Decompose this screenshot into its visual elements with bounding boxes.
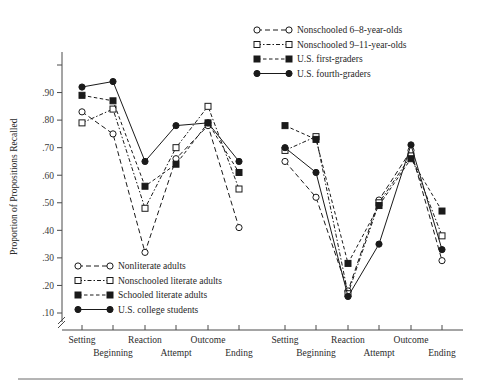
marker-filled-square [439, 208, 445, 214]
series-nonschooled-6-8-year-olds [282, 147, 445, 294]
series-polyline [82, 106, 239, 208]
marker-open-square [236, 186, 242, 192]
marker-open-circle [107, 263, 113, 269]
marker-filled-circle [110, 78, 116, 84]
x-category-label-outcome: Outcome [394, 335, 429, 345]
legend-label: Nonschooled 9–11-year-olds [297, 40, 407, 50]
legend-left-item: U.S. college students [75, 305, 199, 315]
marker-filled-circle [79, 84, 85, 90]
x-category-label-ending: Ending [225, 348, 253, 358]
marker-open-square [254, 42, 260, 48]
marker-filled-circle [107, 306, 113, 312]
marker-open-circle [75, 263, 81, 269]
marker-filled-circle [313, 169, 319, 175]
legend-right-item: Nonschooled 9–11-year-olds [254, 40, 407, 50]
marker-filled-circle [254, 70, 260, 76]
series-polyline [82, 95, 239, 186]
marker-open-circle [254, 27, 260, 33]
marker-open-circle [236, 224, 242, 230]
marker-open-circle [439, 258, 445, 264]
y-tick-label: .70 [42, 143, 54, 153]
marker-filled-circle [408, 142, 414, 148]
marker-filled-circle [75, 306, 81, 312]
legend-right-item: U.S. first-graders [254, 54, 363, 64]
legend-left: Nonliterate adultsNonschooled literate a… [75, 261, 222, 315]
marker-open-square [205, 103, 211, 109]
x-category-label-attempt: Attempt [160, 348, 191, 358]
marker-open-circle [313, 194, 319, 200]
legend-label: U.S. fourth-graders [297, 69, 371, 79]
series-nonschooled-9-11-year-olds [282, 134, 445, 297]
marker-filled-square [408, 156, 414, 162]
y-tick-label: .50 [42, 198, 54, 208]
series-u-s-fourth-graders [282, 142, 445, 300]
marker-filled-circle [142, 158, 148, 164]
two-panel-line-chart: .90.80.70.60.50.40.30.20.10 Proportion o… [0, 0, 481, 388]
legend-right-item: U.S. fourth-graders [254, 69, 371, 79]
legend-left-item: Nonschooled literate adults [75, 276, 222, 286]
marker-filled-square [75, 292, 81, 298]
y-axis-title: Proportion of Propositions Recalled [9, 118, 19, 255]
y-tick-label: .30 [42, 253, 54, 263]
marker-open-circle [79, 109, 85, 115]
legend-left-item: Schooled literate adults [75, 290, 207, 300]
marker-open-square [79, 120, 85, 126]
legend-right-item: Nonschooled 6–8-year-olds [254, 25, 402, 35]
marker-open-circle [110, 131, 116, 137]
y-axis: .90.80.70.60.50.40.30.20.10 [42, 52, 65, 328]
series-schooled-literate-adults [79, 92, 242, 189]
marker-filled-square [107, 292, 113, 298]
y-tick-label: .20 [42, 281, 54, 291]
x-category-label-beginning: Beginning [296, 348, 336, 358]
x-category-label-outcome: Outcome [191, 335, 226, 345]
marker-open-square [142, 205, 148, 211]
marker-filled-circle [205, 120, 211, 126]
marker-filled-square [79, 92, 85, 98]
series-polyline [285, 145, 442, 297]
legend-label: Schooled literate adults [118, 290, 207, 300]
marker-filled-circle [376, 241, 382, 247]
y-tick-label: .10 [42, 308, 54, 318]
x-category-label-attempt: Attempt [363, 348, 394, 358]
x-category-label-reaction: Reaction [128, 335, 162, 345]
y-tick-label: .90 [42, 88, 54, 98]
marker-filled-circle [439, 247, 445, 253]
marker-open-circle [286, 27, 292, 33]
series-u-s-college-students [79, 78, 242, 164]
marker-filled-square [286, 56, 292, 62]
marker-open-square [286, 42, 292, 48]
marker-filled-square [110, 98, 116, 104]
marker-filled-square [236, 169, 242, 175]
legend-label: Nonschooled literate adults [118, 276, 222, 286]
marker-open-square [439, 233, 445, 239]
series-polyline [285, 126, 442, 264]
marker-filled-circle [345, 293, 351, 299]
legend-label: U.S. college students [118, 305, 199, 315]
figure-container: .90.80.70.60.50.40.30.20.10 Proportion o… [0, 0, 481, 388]
legend-right: Nonschooled 6–8-year-oldsNonschooled 9–1… [254, 25, 407, 79]
x-axis: SettingBeginningReactionAttemptOutcomeEn… [62, 325, 463, 358]
marker-filled-square [282, 123, 288, 129]
marker-filled-circle [173, 123, 179, 129]
marker-filled-square [313, 136, 319, 142]
legend-left-item: Nonliterate adults [75, 261, 186, 271]
right-panel-series [282, 123, 445, 300]
marker-filled-square [254, 56, 260, 62]
marker-filled-circle [236, 158, 242, 164]
axis-break-mark [58, 321, 65, 328]
y-tick-label: .40 [42, 226, 54, 236]
marker-filled-square [376, 203, 382, 209]
series-nonliterate-adults [79, 109, 242, 256]
legend-label: Nonliterate adults [118, 261, 186, 271]
marker-filled-square [142, 183, 148, 189]
x-category-label-setting: Setting [272, 335, 299, 345]
x-category-label-beginning: Beginning [93, 348, 133, 358]
legend-label: U.S. first-graders [297, 54, 363, 64]
marker-open-circle [282, 158, 288, 164]
x-category-label-setting: Setting [69, 335, 96, 345]
x-category-label-ending: Ending [428, 348, 456, 358]
y-tick-label: .80 [42, 115, 54, 125]
marker-filled-circle [282, 145, 288, 151]
marker-open-square [107, 278, 113, 284]
legend-label: Nonschooled 6–8-year-olds [297, 25, 402, 35]
